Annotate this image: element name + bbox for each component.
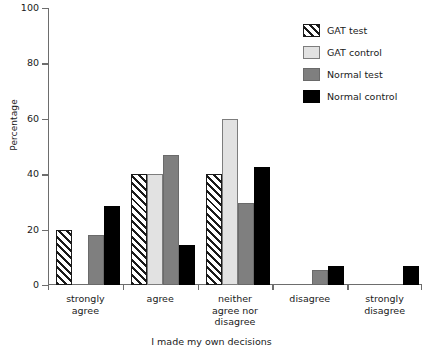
x-group-label-line1: strongly (345, 293, 423, 305)
bar-strongly-agree-gat-test (56, 230, 72, 285)
bar-agree-gat-control (147, 174, 163, 285)
bar-agree-normal-test (163, 155, 179, 285)
black-swatch-icon (303, 90, 320, 103)
bar-strongly-disagree-normal-control (403, 266, 419, 285)
x-tick-1 (123, 284, 124, 290)
x-axis-title: I made my own decisions (0, 336, 423, 347)
y-tick-label-80: 80 (0, 58, 39, 68)
x-tick-2 (198, 284, 199, 290)
bar-neither-gat-control (222, 119, 238, 285)
x-group-label-neither: neither agree nor disagree (195, 293, 275, 328)
x-group-label-agree: agree (120, 293, 200, 305)
y-tick-80 (42, 63, 48, 64)
y-tick-label-20: 20 (0, 225, 39, 235)
y-tick-label-100: 100 (0, 3, 39, 13)
x-group-label-line1: neither (195, 293, 275, 305)
y-axis-title: Percentage (9, 80, 19, 170)
bar-disagree-normal-control (328, 266, 344, 285)
x-group-label-line2: agree (45, 305, 125, 317)
bar-agree-gat-test (131, 174, 147, 285)
legend-label-normal-test: Normal test (327, 69, 383, 80)
x-group-label-line3: disagree (195, 316, 275, 328)
bar-disagree-normal-test (312, 270, 328, 285)
y-tick-label-0: 0 (0, 280, 39, 290)
bar-neither-normal-control (254, 167, 270, 285)
bar-strongly-agree-normal-test (88, 235, 104, 285)
y-axis-line (48, 8, 49, 285)
x-tick-3 (272, 284, 273, 290)
mid-gray-swatch-icon (303, 68, 320, 81)
light-gray-swatch-icon (303, 46, 320, 59)
y-tick-20 (42, 230, 48, 231)
bar-strongly-agree-normal-control (104, 206, 120, 285)
legend-item-normal-test: Normal test (303, 63, 423, 85)
legend: GAT test GAT control Normal test Normal … (303, 19, 423, 107)
x-group-label-line1: agree (120, 293, 200, 305)
hatched-swatch-icon (303, 24, 320, 37)
legend-item-gat-test: GAT test (303, 19, 423, 41)
x-tick-0 (48, 284, 49, 290)
x-group-label-line1: strongly (45, 293, 125, 305)
x-tick-4 (347, 284, 348, 290)
legend-item-normal-control: Normal control (303, 85, 423, 107)
legend-item-gat-control: GAT control (303, 41, 423, 63)
legend-label-gat-test: GAT test (327, 25, 367, 36)
x-tick-5 (421, 284, 422, 290)
x-group-label-line1: disagree (270, 293, 350, 305)
x-group-label-line2: agree nor (195, 305, 275, 317)
x-group-label-strongly-agree: strongly agree (45, 293, 125, 316)
x-group-label-line2: disagree (345, 305, 423, 317)
x-group-label-strongly-disagree: strongly disagree (345, 293, 423, 316)
x-group-label-disagree: disagree (270, 293, 350, 305)
y-tick-100 (42, 8, 48, 9)
y-tick-40 (42, 174, 48, 175)
bar-neither-normal-test (238, 203, 254, 285)
bar-neither-gat-test (206, 174, 222, 285)
x-axis-line (48, 284, 422, 285)
y-tick-60 (42, 119, 48, 120)
y-tick-label-60: 60 (0, 114, 39, 124)
legend-label-normal-control: Normal control (327, 91, 397, 102)
legend-label-gat-control: GAT control (327, 47, 382, 58)
bar-agree-normal-control (179, 245, 195, 285)
y-tick-label-40: 40 (0, 169, 39, 179)
